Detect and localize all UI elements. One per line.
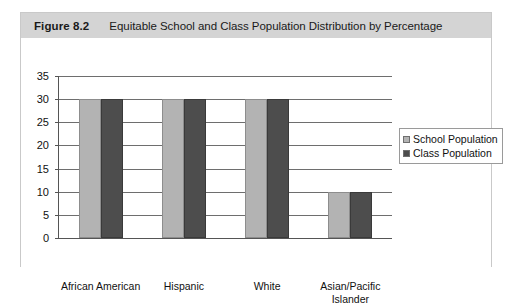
y-axis-tick bbox=[55, 145, 59, 146]
y-axis-tick-label: 20 bbox=[9, 139, 49, 151]
y-axis-tick bbox=[55, 99, 59, 100]
y-axis-tick bbox=[55, 192, 59, 193]
bar bbox=[101, 99, 123, 238]
legend-item: Class Population bbox=[403, 146, 498, 160]
legend-swatch-icon bbox=[403, 136, 410, 143]
bar-group bbox=[245, 76, 289, 238]
y-axis-tick-label: 30 bbox=[9, 93, 49, 105]
bar bbox=[245, 99, 267, 238]
figure-caption: Equitable School and Class Population Di… bbox=[109, 20, 442, 32]
legend-item-label: Class Population bbox=[413, 147, 492, 159]
bar-group bbox=[328, 76, 372, 238]
chart-legend: School PopulationClass Population bbox=[399, 128, 503, 164]
x-axis-tick-label: African American bbox=[59, 280, 142, 293]
y-axis-tick-label: 5 bbox=[9, 209, 49, 221]
y-axis-tick-label: 0 bbox=[9, 232, 49, 244]
legend-item-label: School Population bbox=[413, 133, 498, 145]
y-axis-tick-label: 25 bbox=[9, 116, 49, 128]
bar-group bbox=[162, 76, 206, 238]
x-axis-tick-label: Hispanic bbox=[142, 280, 225, 293]
y-axis-tick bbox=[55, 215, 59, 216]
legend-swatch-icon bbox=[403, 150, 410, 157]
figure-header: Figure 8.2 Equitable School and Class Po… bbox=[21, 13, 491, 38]
bar bbox=[79, 99, 101, 238]
y-axis-tick-label: 35 bbox=[9, 70, 49, 82]
bar bbox=[184, 99, 206, 238]
y-axis-tick bbox=[55, 238, 59, 239]
x-axis-tick-label: Asian/Pacific Islander bbox=[309, 280, 392, 305]
y-axis-tick-label: 10 bbox=[9, 186, 49, 198]
plot-area: 05101520253035 African AmericanHispanicW… bbox=[58, 76, 392, 239]
bar bbox=[267, 99, 289, 238]
figure-container: Figure 8.2 Equitable School and Class Po… bbox=[20, 12, 492, 267]
figure-number: Figure 8.2 bbox=[34, 20, 89, 32]
legend-item: School Population bbox=[403, 132, 498, 146]
y-axis-tick-label: 15 bbox=[9, 163, 49, 175]
y-axis-tick bbox=[55, 122, 59, 123]
chart-canvas: 05101520253035 African AmericanHispanicW… bbox=[21, 38, 491, 268]
y-axis-tick bbox=[55, 76, 59, 77]
bar bbox=[328, 192, 350, 238]
bar bbox=[350, 192, 372, 238]
y-axis-tick bbox=[55, 169, 59, 170]
bar-group bbox=[79, 76, 123, 238]
bar bbox=[162, 99, 184, 238]
x-axis-tick-label: White bbox=[226, 280, 309, 293]
